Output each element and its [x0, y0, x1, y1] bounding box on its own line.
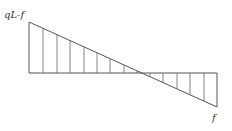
left-value-label: qL-f	[4, 10, 24, 20]
shear-force-diagram	[0, 0, 232, 131]
right-value-label: f	[212, 113, 216, 123]
